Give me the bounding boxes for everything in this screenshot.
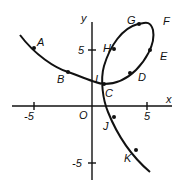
point-label-j: J — [102, 120, 109, 132]
point-label-d: D — [138, 71, 146, 83]
origin-label: O — [79, 109, 88, 121]
x-tick-label-neg5: -5 — [24, 110, 35, 122]
parametric-curve-diagram: y x O -5 5 5 -5 A B C I D E F G H J K — [0, 0, 188, 190]
point-label-f: F — [163, 15, 171, 27]
point-label-a: A — [36, 36, 44, 48]
y-tick-label-5: 5 — [78, 44, 85, 56]
y-tick-label-neg5: -5 — [72, 157, 83, 169]
x-axis-label: x — [165, 93, 172, 105]
point-label-b: B — [57, 73, 64, 85]
point-label-k: K — [124, 152, 132, 164]
point-label-c: C — [105, 87, 113, 99]
point-label-g: G — [127, 14, 136, 26]
x-tick-label-5: 5 — [144, 110, 151, 122]
y-axis-label: y — [80, 12, 88, 24]
point-label-h: H — [103, 42, 111, 54]
point-label-i: I — [95, 73, 98, 85]
point-label-e: E — [160, 50, 168, 62]
